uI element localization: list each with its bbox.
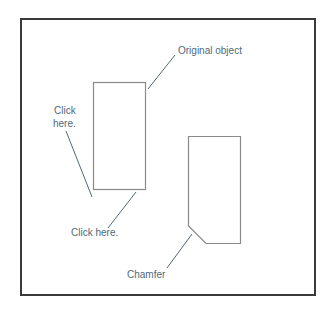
click-here-left-label-line2: here. <box>53 117 76 130</box>
chamfer-leader <box>167 234 192 268</box>
chamfer-label: Chamfer <box>127 268 165 281</box>
click-here-bottom-leader <box>108 192 136 228</box>
original-object-rectangle[interactable] <box>94 83 146 190</box>
chamfered-object <box>189 137 241 244</box>
original-object-label: Original object <box>178 44 242 57</box>
click-here-bottom-label: Click here. <box>71 226 118 239</box>
original-object-leader <box>148 55 175 89</box>
click-here-left-label-line1: Click <box>54 104 76 117</box>
click-here-left-leader <box>66 131 92 197</box>
